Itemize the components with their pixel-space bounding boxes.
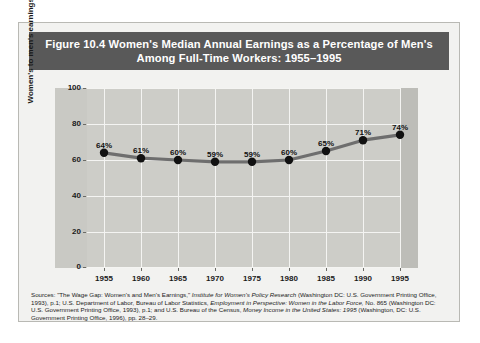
x-tick-label-1990: 1990 [343,274,383,283]
x-tick-mark-1965 [178,268,179,271]
x-tick-label-1955: 1955 [84,274,124,283]
y-tick-label-100: 100 [55,84,81,92]
axis-wall-left [55,88,87,268]
y-tick-mark-20 [83,232,86,233]
x-tick-label-1975: 1975 [232,274,272,283]
source-italic-1: Institute for Women's Policy Research [192,291,296,298]
x-tick-label-1970: 1970 [195,274,235,283]
data-label-1990: 71% [347,128,379,137]
y-tick-label-20: 20 [55,228,81,236]
data-label-1975: 59% [236,150,268,159]
series-line [87,88,401,268]
x-tick-mark-1995 [400,268,401,271]
x-tick-mark-1980 [289,268,290,271]
axis-wall-right [401,88,418,268]
x-tick-label-1980: 1980 [269,274,309,283]
y-tick-mark-80 [83,124,86,125]
x-tick-label-1985: 1985 [306,274,346,283]
source-note: Sources: "The Wage Gap: Women's and Men'… [31,291,447,321]
source-part-1: Sources: "The Wage Gap: Women's and Men'… [31,291,192,298]
figure-title-bar: Figure 10.4 Women's Median Annual Earnin… [29,32,449,70]
x-tick-label-1995: 1995 [380,274,420,283]
data-label-1960: 61% [125,146,157,155]
figure-container: Figure 10.4 Women's Median Annual Earnin… [18,22,460,322]
x-tick-mark-1970 [215,268,216,271]
source-italic-2: Employment in Perspective: Women in the … [210,299,363,306]
data-label-1980: 60% [273,148,305,157]
data-label-1965: 60% [162,148,194,157]
y-tick-mark-60 [83,160,86,161]
y-tick-mark-100 [83,88,86,89]
y-axis-title: Women's to men's earnings ratio [25,0,37,106]
y-tick-mark-40 [83,196,86,197]
y-tick-mark-0 [83,267,86,268]
source-italic-3: Money Income in the United States: 1995 [243,306,357,313]
x-tick-mark-1985 [326,268,327,271]
y-tick-label-80: 80 [55,120,81,128]
x-tick-label-1965: 1965 [158,274,198,283]
data-label-1995: 74% [384,123,416,132]
x-tick-label-1960: 1960 [121,274,161,283]
x-tick-mark-1975 [252,268,253,271]
page-title: Figure 10.4 Women's Median Annual Earnin… [39,37,439,65]
figure-title-line1: Figure 10.4 Women's Median Annual Earnin… [45,38,433,50]
chart-plot-region: Women's to men's earnings ratio 100 80 6… [29,78,449,290]
x-tick-mark-1955 [104,268,105,271]
figure-title-line2: Among Full-Time Workers: 1955–1995 [136,52,341,64]
y-tick-label-40: 40 [55,192,81,200]
y-tick-label-60: 60 [55,156,81,164]
data-label-1970: 59% [199,150,231,159]
x-tick-mark-1990 [363,268,364,271]
y-tick-label-0: 0 [55,263,81,271]
data-label-1985: 65% [310,139,342,148]
x-tick-mark-1960 [141,268,142,271]
data-label-1955: 64% [88,141,120,150]
